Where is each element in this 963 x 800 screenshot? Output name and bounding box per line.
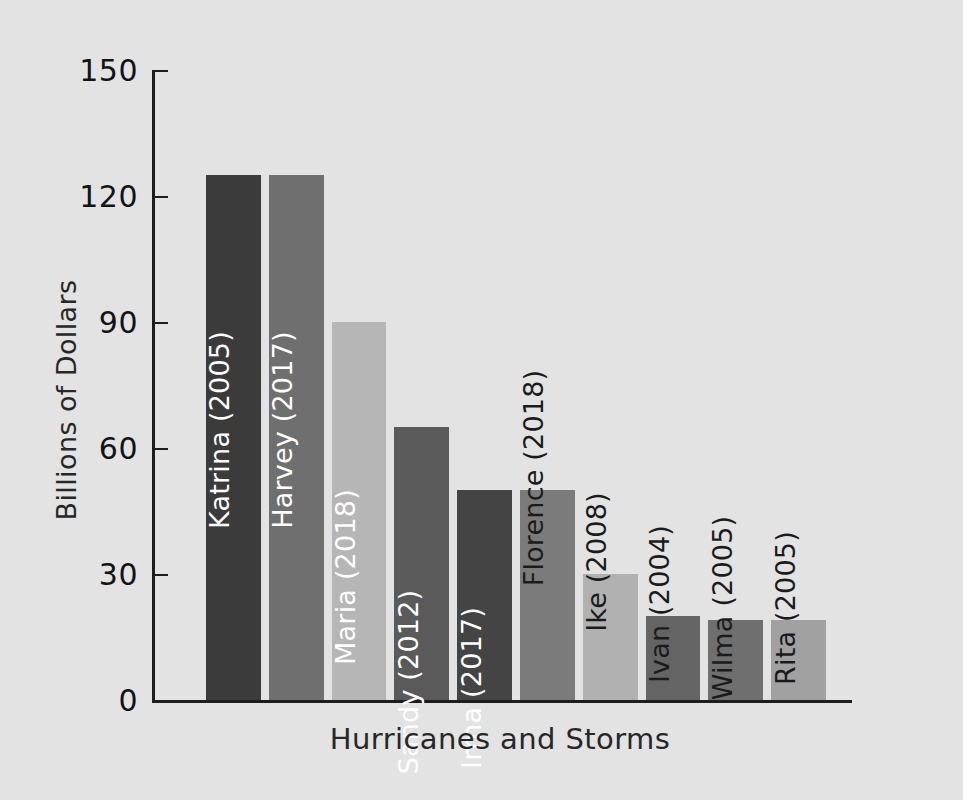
bar-group[interactable]: Irma (2017) — [457, 67, 512, 700]
bar-group[interactable]: Katrina (2005) — [206, 67, 261, 700]
bar-label: Harvey (2017) — [269, 331, 296, 528]
bar-label: Ike (2008) — [583, 492, 610, 632]
bar-label: Ivan (2004) — [646, 525, 673, 683]
bar-group[interactable]: Maria (2018) — [332, 67, 387, 700]
x-axis-title: Hurricanes and Storms — [150, 722, 850, 756]
bar-group[interactable]: Ike (2008) — [583, 67, 638, 700]
bar-group[interactable]: Rita (2005) — [771, 67, 826, 700]
y-tick-label: 0 — [118, 683, 138, 718]
bar-group[interactable]: Harvey (2017) — [269, 67, 324, 700]
y-tick-label: 60 — [99, 431, 138, 466]
bar-group[interactable]: Florence (2018) — [520, 67, 575, 700]
bar-group[interactable]: Wilma (2005) — [708, 67, 763, 700]
bar-group[interactable]: Sandy (2012) — [394, 67, 449, 700]
plot-area: 0306090120150 Katrina (2005)Harvey (2017… — [152, 70, 852, 703]
y-axis-title: Billions of Dollars — [34, 0, 98, 800]
y-tick-label: 120 — [79, 179, 138, 214]
y-tick-label: 90 — [99, 305, 138, 340]
bar-label: Wilma (2005) — [709, 516, 736, 701]
y-tick-label: 150 — [79, 53, 138, 88]
bar-group[interactable]: Ivan (2004) — [646, 67, 701, 700]
y-tick-label: 30 — [99, 557, 138, 592]
bars-layer: Katrina (2005)Harvey (2017)Maria (2018)S… — [152, 70, 852, 703]
bar-label: Maria (2018) — [332, 489, 359, 665]
bar-label: Katrina (2005) — [206, 331, 233, 529]
bar-label: Rita (2005) — [772, 531, 799, 685]
bar-chart: Billions of Dollars 0306090120150 Katrin… — [0, 0, 963, 800]
bar-label: Florence (2018) — [520, 370, 547, 587]
